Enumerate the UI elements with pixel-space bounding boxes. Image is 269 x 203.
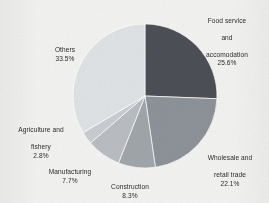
slice-label-text: Construction [111, 183, 149, 190]
slice-label-others: Others 33.5% [35, 38, 95, 72]
slice-value-text: 33.5% [35, 55, 95, 63]
slice-label-agriculture-fishery: Agriculture and fishery 2.8% [4, 118, 78, 168]
slice-value-text: 2.8% [4, 152, 78, 160]
slice-label-wholesale-retail: Wholesale and retail trade 22.1% [194, 146, 266, 196]
slice-label-text: retail trade [214, 171, 246, 178]
slice-label-text: Manufacturing [49, 168, 92, 175]
slice-label-text: fishery [31, 143, 51, 150]
slice-label-food-service: Food service and accomodation 25.6% [189, 9, 265, 76]
slice-label-text: Wholesale and [208, 154, 252, 161]
pie-chart: Food service and accomodation 25.6% Whol… [0, 0, 269, 203]
slice-label-text: Food service [208, 17, 247, 24]
slice-label-construction: Construction 8.3% [96, 175, 164, 203]
slice-value-text: 7.7% [35, 177, 105, 185]
slice-value-text: 22.1% [194, 180, 266, 188]
slice-label-text: accomodation [206, 51, 248, 58]
slice-value-text: 8.3% [96, 192, 164, 200]
slice-value-text: 25.6% [189, 59, 265, 67]
slice-label-text: Others [55, 46, 75, 53]
slice-label-text: and [221, 34, 232, 41]
slice-label-text: Agriculture and [18, 126, 63, 133]
